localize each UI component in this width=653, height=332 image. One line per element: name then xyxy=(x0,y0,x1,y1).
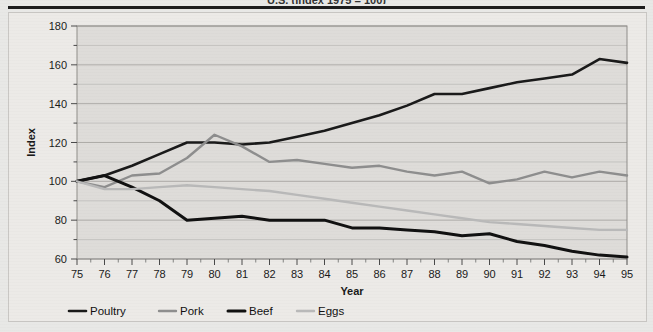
y-tick-label-140: 140 xyxy=(49,98,67,110)
x-tick-label-83: 83 xyxy=(291,268,303,280)
y-tick-labels: 6080100120140160180 xyxy=(49,20,67,265)
y-tick-label-60: 60 xyxy=(55,253,67,265)
y-tick-label-80: 80 xyxy=(55,214,67,226)
x-tick-label-84: 84 xyxy=(318,268,330,280)
title-divider-rule xyxy=(8,6,645,9)
chart-page: U.S. (index 1975 = 100) 6080100120140160… xyxy=(0,0,653,332)
y-tick-label-100: 100 xyxy=(49,175,67,187)
legend-label-eggs[interactable]: Eggs xyxy=(318,305,344,317)
x-tick-label-79: 79 xyxy=(181,268,193,280)
chart-legend[interactable]: PoultryPorkBeefEggs xyxy=(69,305,344,317)
x-tick-label-93: 93 xyxy=(566,268,578,280)
chart-surface: 6080100120140160180 75767778798081828384… xyxy=(8,12,647,322)
x-tick-label-90: 90 xyxy=(483,268,495,280)
figure-title-clipped: U.S. (index 1975 = 100) xyxy=(8,0,645,4)
x-tick-label-95: 95 xyxy=(621,268,633,280)
x-tick-label-82: 82 xyxy=(263,268,275,280)
x-tick-label-76: 76 xyxy=(98,268,110,280)
x-tick-label-80: 80 xyxy=(208,268,220,280)
line-chart: 6080100120140160180 75767778798081828384… xyxy=(9,13,644,319)
y-tick-label-180: 180 xyxy=(49,20,67,32)
x-tick-labels: 7576777879808182838485868788899091929394… xyxy=(71,268,633,280)
x-tick-label-94: 94 xyxy=(593,268,605,280)
legend-label-poultry[interactable]: Poultry xyxy=(90,305,126,317)
x-tick-label-87: 87 xyxy=(401,268,413,280)
y-axis-title: Index xyxy=(25,127,37,157)
y-tick-label-160: 160 xyxy=(49,59,67,71)
legend-label-beef[interactable]: Beef xyxy=(249,305,273,317)
x-tick-label-85: 85 xyxy=(346,268,358,280)
x-tick-label-78: 78 xyxy=(153,268,165,280)
x-tick-label-81: 81 xyxy=(236,268,248,280)
x-axis-title: Year xyxy=(340,285,364,297)
x-tick-label-89: 89 xyxy=(456,268,468,280)
x-tick-label-91: 91 xyxy=(511,268,523,280)
legend-label-pork[interactable]: Pork xyxy=(180,305,204,317)
x-tick-label-86: 86 xyxy=(373,268,385,280)
x-tick-label-92: 92 xyxy=(538,268,550,280)
x-tick-label-77: 77 xyxy=(126,268,138,280)
x-tick-label-75: 75 xyxy=(71,268,83,280)
x-tick-label-88: 88 xyxy=(428,268,440,280)
y-tick-label-120: 120 xyxy=(49,137,67,149)
